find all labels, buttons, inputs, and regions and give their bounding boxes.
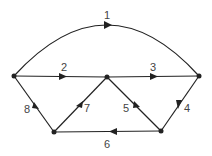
edge-label-2: 2 xyxy=(61,61,67,73)
arrow-up-left-icon xyxy=(133,101,140,108)
edge-5: 5 xyxy=(107,77,161,131)
edge-label-4: 4 xyxy=(184,102,190,114)
edge-8: 8 xyxy=(14,76,54,132)
arrow-right-icon xyxy=(104,21,112,29)
edge-label-3: 3 xyxy=(150,61,156,73)
node-left xyxy=(12,74,17,79)
node-center xyxy=(105,75,110,80)
edge-label-1: 1 xyxy=(104,9,110,21)
edge-4: 4 xyxy=(161,76,199,131)
edge-label-7: 7 xyxy=(84,102,90,114)
node-bottom-right xyxy=(159,129,164,134)
edge-6: 6 xyxy=(54,128,161,150)
edge-label-8: 8 xyxy=(24,103,30,115)
arrow-right-icon xyxy=(59,73,67,80)
edge-1: 1 xyxy=(14,9,199,76)
node-bottom-left xyxy=(52,130,57,135)
arrow-left-icon xyxy=(109,128,117,135)
edge-label-6: 6 xyxy=(104,138,110,150)
arrow-right-icon xyxy=(150,73,158,80)
edge-3: 3 xyxy=(107,61,199,80)
arrow-up-right-icon xyxy=(76,101,83,108)
node-right xyxy=(197,74,202,79)
edge-7: 7 xyxy=(54,77,107,132)
edge-label-5: 5 xyxy=(123,102,129,114)
directed-graph: 1 2 3 4 5 6 7 8 xyxy=(0,0,212,156)
edge-2: 2 xyxy=(14,61,107,80)
